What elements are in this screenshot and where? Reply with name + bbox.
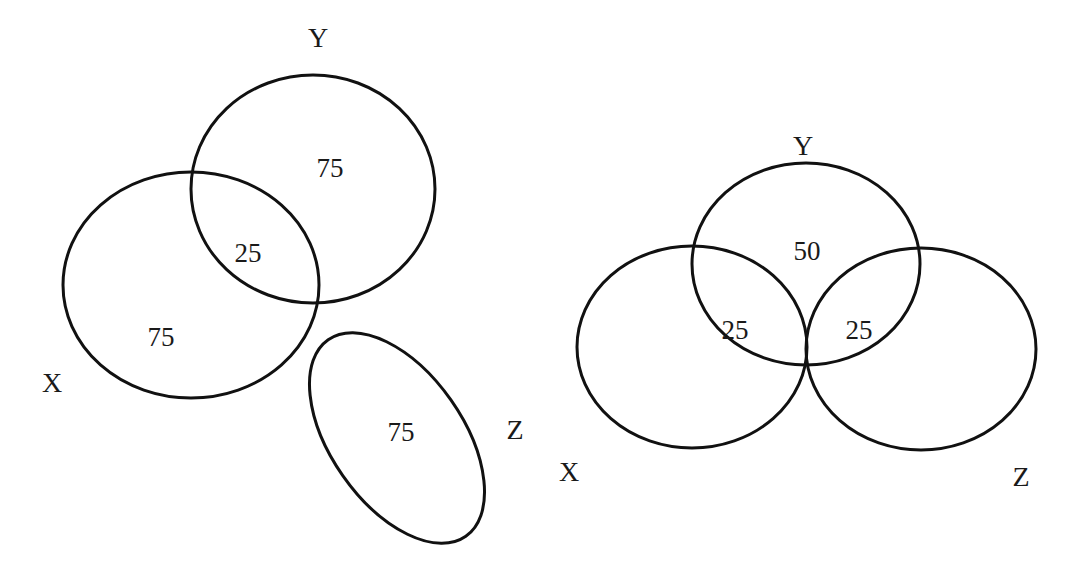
left-region-z-only: 75 xyxy=(388,419,415,446)
right-region-y-and-z: 25 xyxy=(846,317,873,344)
right-label-z: Z xyxy=(1012,463,1029,491)
left-label-x: X xyxy=(42,369,62,397)
right-region-y-only: 50 xyxy=(794,238,821,265)
left-region-x-only: 75 xyxy=(148,324,175,351)
left-region-y-only: 75 xyxy=(317,155,344,182)
right-venn-diagram xyxy=(577,163,1036,450)
venn-diagrams-canvas xyxy=(0,0,1080,576)
left-venn-diagram xyxy=(63,75,520,574)
right-set-z-circle xyxy=(806,248,1036,450)
right-label-y: Y xyxy=(793,132,813,160)
right-region-x-and-y: 25 xyxy=(722,317,749,344)
left-label-y: Y xyxy=(308,24,328,52)
left-region-x-and-y: 25 xyxy=(235,240,262,267)
right-label-x: X xyxy=(559,458,579,486)
left-label-z: Z xyxy=(506,416,523,444)
left-set-y-ellipse xyxy=(191,75,435,303)
